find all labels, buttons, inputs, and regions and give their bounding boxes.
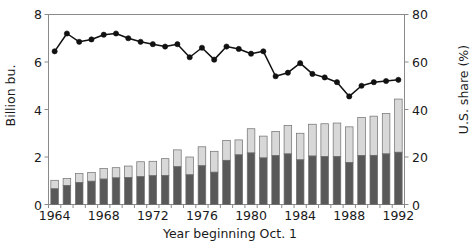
chart-graphics bbox=[0, 0, 465, 247]
chart-container: 8 6 4 2 0 80 60 40 20 0 1964196819721976… bbox=[0, 0, 465, 247]
